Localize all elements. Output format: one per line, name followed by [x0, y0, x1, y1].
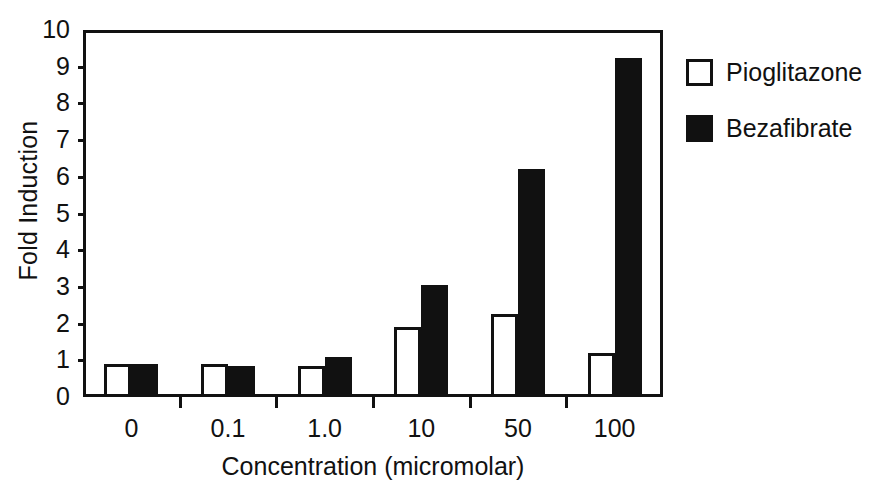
x-axis-tick-label: 0 — [86, 414, 176, 443]
bar-pioglitazone-0.1 — [201, 364, 228, 397]
bar-pioglitazone-10 — [394, 327, 421, 397]
y-axis-tick-label: 6 — [36, 164, 70, 189]
bar-pioglitazone-1.0 — [298, 366, 325, 397]
x-axis-tick-mark — [275, 397, 278, 408]
x-axis-tick-mark — [565, 397, 568, 408]
x-axis-tick-mark — [372, 397, 375, 408]
x-axis-tick-mark — [469, 397, 472, 408]
legend-label: Bezafibrate — [726, 114, 852, 143]
bar-pioglitazone-0 — [104, 364, 131, 397]
y-axis-tick-label: 9 — [36, 54, 70, 79]
legend-label: Pioglitazone — [726, 58, 862, 87]
y-axis-tick-label: 7 — [36, 127, 70, 152]
y-axis-tick-label: 4 — [36, 237, 70, 262]
y-axis-tick-label: 1 — [36, 347, 70, 372]
x-axis-tick-label: 10 — [376, 414, 466, 443]
x-axis-tick-label: 0.1 — [183, 414, 273, 443]
bar-bezafibrate-1.0 — [325, 357, 352, 397]
x-axis-tick-mark — [179, 397, 182, 408]
bar-pioglitazone-50 — [491, 314, 518, 397]
bar-bezafibrate-0.1 — [228, 366, 255, 397]
bar-bezafibrate-0 — [131, 364, 158, 397]
legend-swatch-open — [686, 59, 713, 86]
x-axis-tick-label: 50 — [473, 414, 563, 443]
y-axis-tick-label: 10 — [36, 17, 70, 42]
legend-item-bezafibrate: Bezafibrate — [686, 108, 876, 148]
x-axis-title: Concentration (micromolar) — [83, 452, 663, 481]
bar-bezafibrate-10 — [421, 285, 448, 397]
bar-series-layer — [83, 30, 663, 397]
y-axis-tick-label: 0 — [36, 384, 70, 409]
y-axis-tick-label: 2 — [36, 311, 70, 336]
y-axis-tick-label: 5 — [36, 201, 70, 226]
y-axis-tick-label: 3 — [36, 274, 70, 299]
chart-legend: PioglitazoneBezafibrate — [686, 52, 876, 164]
x-axis-tick-label: 100 — [570, 414, 660, 443]
bar-bezafibrate-50 — [518, 169, 545, 397]
bar-bezafibrate-100 — [615, 58, 642, 397]
legend-item-pioglitazone: Pioglitazone — [686, 52, 876, 92]
bar-chart-figure: Fold Induction 109876543210 00.11.010501… — [0, 0, 879, 498]
bar-pioglitazone-100 — [588, 353, 615, 397]
x-axis-tick-label: 1.0 — [280, 414, 370, 443]
legend-swatch-filled — [686, 115, 713, 142]
y-axis-tick-label: 8 — [36, 90, 70, 115]
